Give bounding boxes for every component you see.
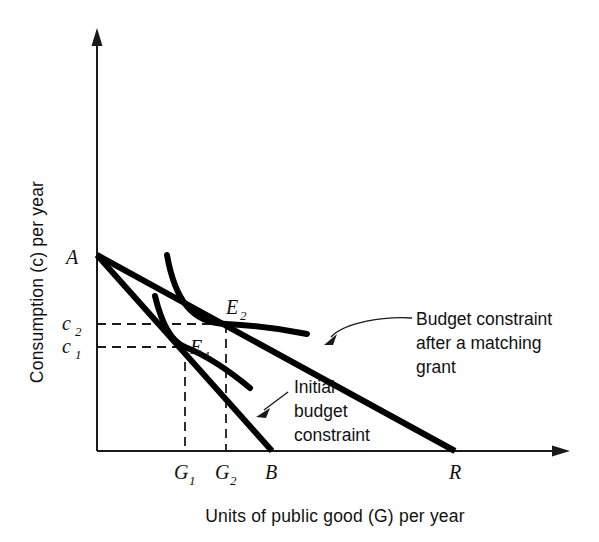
initial-budget-constraint-line (97, 255, 272, 451)
annotation-matching-grant: Budget constraint after a matching grant (324, 309, 552, 377)
label-g1-subscript: 1 (189, 473, 196, 488)
label-c1-subscript: 1 (75, 347, 82, 362)
label-g1: G 1 (174, 461, 196, 488)
label-e2: E 2 (225, 296, 247, 323)
initial-budget-text-line-3: constraint (294, 425, 370, 445)
matching-grant-budget-constraint-line (97, 255, 455, 451)
label-e1-subscript: 1 (204, 348, 211, 363)
figure-root: Consumption (c) per year Units of public… (0, 0, 599, 542)
matching-grant-text-line-2: after a matching (416, 333, 541, 353)
matching-grant-text-line-3: grant (416, 357, 456, 377)
matching-grant-arrow-icon (324, 334, 337, 345)
y-axis-arrow-icon (92, 28, 103, 46)
initial-budget-arrow-icon (256, 408, 270, 418)
label-g2-base: G (215, 461, 230, 483)
label-c2-base: c (62, 312, 71, 334)
label-c2-subscript: 2 (75, 324, 82, 339)
label-g2: G 2 (215, 461, 237, 488)
label-e2-base: E (225, 296, 238, 318)
initial-budget-text-line-2: budget (294, 401, 348, 421)
label-point-r: R (448, 461, 461, 483)
matching-grant-text-line-1: Budget constraint (416, 309, 552, 329)
label-point-b: B (265, 461, 277, 483)
label-e1-base: E (189, 336, 202, 358)
matching-grant-pointer-line (331, 318, 412, 337)
indifference-curve-upper (167, 255, 307, 334)
initial-budget-pointer-line (264, 392, 288, 410)
initial-budget-text-line-1: Initial (294, 377, 335, 397)
label-c1: c 1 (62, 335, 82, 362)
label-g2-subscript: 2 (230, 473, 237, 488)
label-c1-base: c (62, 335, 71, 357)
x-axis-arrow-icon (552, 446, 570, 457)
label-point-a: A (64, 246, 79, 268)
economics-diagram: Consumption (c) per year Units of public… (0, 0, 599, 542)
guide-lines-group (97, 324, 226, 451)
x-axis-title: Units of public good (G) per year (205, 506, 465, 526)
label-g1-base: G (174, 461, 189, 483)
label-e2-subscript: 2 (240, 308, 247, 323)
y-axis-title: Consumption (c) per year (27, 181, 47, 383)
annotation-initial-budget: Initial budget constraint (256, 377, 370, 445)
